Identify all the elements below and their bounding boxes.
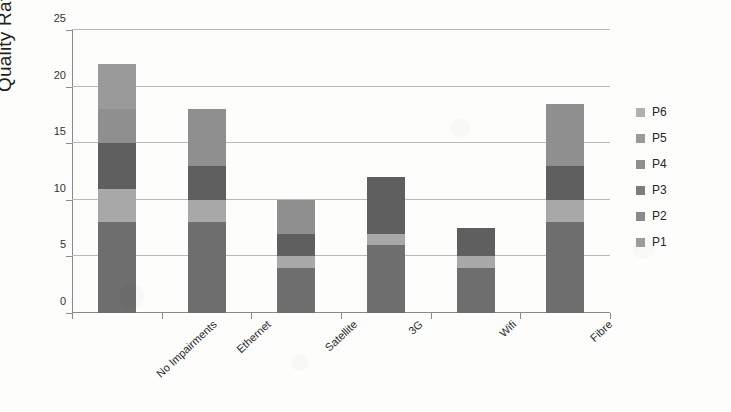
y-tick-label-5: 5 [36,238,66,250]
bar-segment-p2[interactable] [546,200,584,223]
x-tick-label: Satellite [323,318,360,353]
legend-swatch-icon [636,134,645,143]
bar-segment-p4[interactable] [277,200,315,234]
bar-segment-p3[interactable] [98,143,136,188]
bar-segment-p2[interactable] [367,234,405,245]
bar-segment-p3[interactable] [188,166,226,200]
bar-group[interactable] [367,177,405,313]
bar-segment-p1[interactable] [277,268,315,313]
y-tick-label-0: 0 [36,295,66,307]
legend-swatch-icon [636,186,645,195]
legend-item-p4[interactable]: P4 [636,158,726,170]
y-axis-title: Quality Ratings [0,0,16,92]
bar-group[interactable] [457,228,495,313]
bar-segment-p1[interactable] [367,245,405,313]
bar-segment-p1[interactable] [188,222,226,313]
legend-label: P5 [652,132,667,144]
legend-item-p5[interactable]: P5 [636,132,726,144]
bar-segment-p2[interactable] [98,189,136,223]
y-tick-label-20: 20 [36,69,66,81]
legend-item-p3[interactable]: P3 [636,184,726,196]
x-tick-label: Wifi [496,318,518,339]
legend-swatch-icon [636,160,645,169]
x-tick-label: Ethernet [234,318,273,355]
bar-segment-p3[interactable] [367,177,405,234]
bar-series-container [72,30,610,313]
legend-swatch-icon [636,212,645,221]
plot-area [72,30,610,313]
legend-label: P2 [652,210,667,222]
bar-segment-p3[interactable] [277,234,315,257]
legend-swatch-icon [636,238,645,247]
x-tick-label: No Impairments [154,318,219,380]
legend-label: P6 [652,106,667,118]
legend-label: P3 [652,184,667,196]
y-axis-tick-labels: 0510152025 [34,30,66,314]
bar-group[interactable] [277,200,315,313]
legend-label: P4 [652,158,667,170]
y-tick-label-10: 10 [36,182,66,194]
legend-item-p2[interactable]: P2 [636,210,726,222]
bar-segment-p3[interactable] [457,228,495,256]
bar-segment-p4[interactable] [188,109,226,166]
bar-segment-p4[interactable] [546,104,584,166]
x-tick-mark [610,313,611,319]
bar-segment-p2[interactable] [277,256,315,267]
bar-segment-p5[interactable] [98,64,136,109]
bar-segment-p4[interactable] [98,109,136,143]
bar-segment-p2[interactable] [188,200,226,223]
bar-segment-p1[interactable] [457,268,495,313]
bar-group[interactable] [98,64,136,313]
bar-segment-p1[interactable] [546,222,584,313]
bar-segment-p1[interactable] [98,222,136,313]
bar-group[interactable] [188,109,226,313]
y-tick-label-25: 25 [36,12,66,24]
x-axis-tick-labels: No ImpairmentsEthernetSatellite3GWifiFib… [72,318,610,398]
x-tick-label: 3G [406,318,425,337]
chart-legend: P6P5P4P3P2P1 [636,106,726,248]
bar-group[interactable] [546,104,584,313]
y-tick-label-15: 15 [36,125,66,137]
legend-item-p6[interactable]: P6 [636,106,726,118]
legend-swatch-icon [636,108,645,117]
legend-item-p1[interactable]: P1 [636,236,726,248]
stacked-bar-chart: Quality Ratings 0510152025 No Impairment… [0,0,731,412]
bar-segment-p3[interactable] [546,166,584,200]
x-tick-label: Fibre [588,318,615,344]
bar-segment-p2[interactable] [457,256,495,267]
legend-label: P1 [652,236,667,248]
